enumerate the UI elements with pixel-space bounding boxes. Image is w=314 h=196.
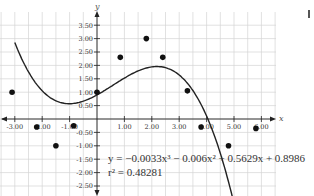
regression-equation: y = −0.0033x³ − 0.006x² + 0.5629x + 0.89…: [108, 152, 306, 164]
scatter-chart: -3.00-2.00-1.001.002.003.004.005.006.003…: [0, 0, 314, 196]
svg-text:2.00: 2.00: [79, 62, 93, 70]
right-edge-mark: [308, 10, 310, 18]
svg-text:2.50: 2.50: [79, 48, 93, 56]
svg-text:-0.50: -0.50: [76, 129, 93, 137]
data-point: [144, 36, 150, 42]
svg-text:5.00: 5.00: [227, 123, 241, 131]
svg-text:-2.00: -2.00: [76, 169, 93, 177]
data-point: [53, 143, 59, 149]
x-axis-label: x: [279, 114, 284, 123]
x-arrow-left-icon: [1, 117, 7, 122]
svg-text:3.50: 3.50: [79, 22, 93, 30]
svg-text:3.00: 3.00: [79, 35, 93, 43]
data-point: [94, 89, 100, 95]
data-point: [9, 89, 15, 95]
data-point: [198, 124, 204, 130]
data-point: [253, 126, 259, 132]
data-point: [117, 55, 123, 61]
y-arrow-down-icon: [95, 190, 100, 196]
data-point: [160, 55, 166, 61]
r-squared-label: r² = 0.48281: [108, 166, 162, 178]
data-point: [71, 123, 77, 129]
svg-text:0.50: 0.50: [79, 102, 93, 110]
svg-text:2.00: 2.00: [145, 123, 159, 131]
data-point: [226, 143, 232, 149]
svg-text:-2.50: -2.50: [76, 182, 93, 190]
svg-text:-3.00: -3.00: [6, 123, 23, 131]
svg-text:1.50: 1.50: [79, 75, 93, 83]
data-point: [185, 88, 191, 94]
svg-text:1.00: 1.00: [79, 89, 93, 97]
svg-text:3.00: 3.00: [172, 123, 186, 131]
data-point: [34, 124, 40, 130]
svg-text:-1.00: -1.00: [76, 142, 93, 150]
svg-text:1.00: 1.00: [117, 123, 131, 131]
y-axis-label: y: [94, 2, 100, 11]
y-arrow-up-icon: [95, 11, 100, 17]
svg-text:-1.50: -1.50: [76, 156, 93, 164]
